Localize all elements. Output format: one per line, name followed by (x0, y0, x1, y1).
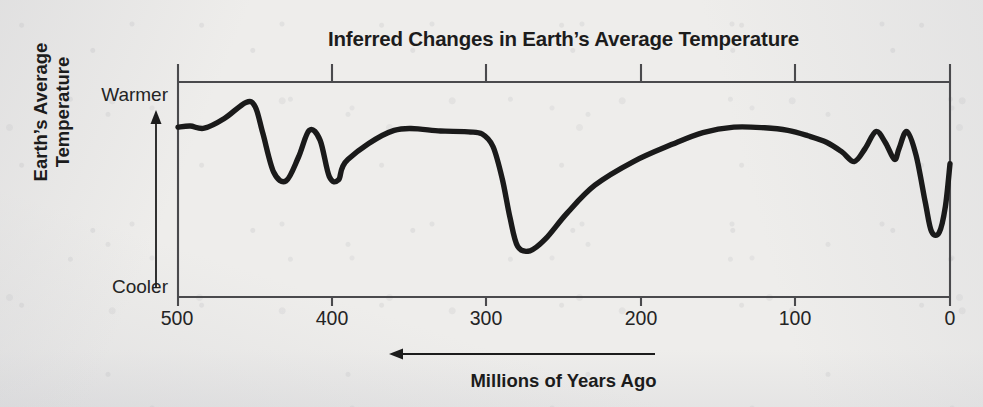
temperature-curve (178, 101, 950, 251)
chart-canvas (0, 0, 983, 407)
arrow-left-icon (389, 349, 655, 360)
temperature-chart: Inferred Changes in Earth’s Average Temp… (0, 0, 983, 407)
plot-frame (178, 82, 950, 297)
arrow-up-icon (151, 110, 162, 288)
axis-tick-marks (178, 64, 950, 306)
